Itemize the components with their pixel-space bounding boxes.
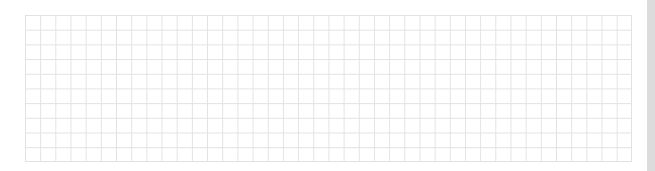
vertical-scrollbar[interactable] bbox=[647, 0, 655, 171]
grid-canvas bbox=[25, 15, 632, 162]
scrollbar-thumb[interactable] bbox=[647, 0, 655, 171]
